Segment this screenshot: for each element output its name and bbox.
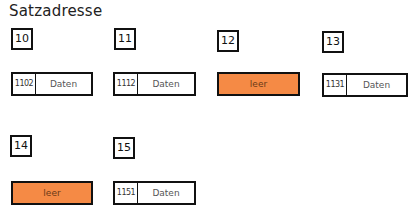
record-slot: 1151 Daten [113, 181, 196, 205]
record-value: Daten [36, 74, 91, 94]
slot-index: 15 [113, 137, 135, 159]
record-slot: 1102 Daten [11, 72, 93, 96]
record-value: leer [13, 183, 91, 203]
record-slot-empty: leer [11, 181, 93, 205]
record-value: Daten [138, 183, 194, 203]
record-value: Daten [138, 74, 194, 94]
record-slot-empty: leer [217, 72, 300, 96]
record-value: leer [219, 74, 298, 94]
record-slot: 1112 Daten [113, 72, 196, 96]
slot-index: 13 [322, 31, 344, 53]
record-value: Daten [347, 75, 406, 95]
slot-index: 12 [217, 30, 239, 52]
record-key: 1151 [115, 183, 138, 203]
slot-index: 14 [10, 135, 32, 157]
record-key: 1131 [324, 75, 347, 95]
record-key: 1112 [115, 74, 138, 94]
record-slot: 1131 Daten [322, 73, 408, 97]
record-key: 1102 [13, 74, 36, 94]
diagram-title: Satzadresse [9, 2, 102, 20]
slot-index: 10 [11, 28, 33, 50]
slot-index: 11 [114, 28, 136, 50]
